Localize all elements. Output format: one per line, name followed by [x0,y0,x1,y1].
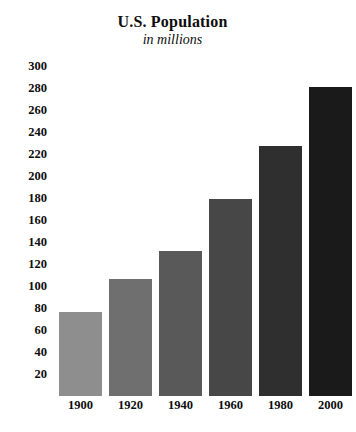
chart-title-block: U.S. Population in millions [0,12,345,49]
x-tick-label: 1980 [253,398,308,413]
bar [159,251,202,396]
bar [309,87,352,396]
bar [59,312,102,396]
y-tick-label: 280 [0,82,50,94]
y-tick-label: 300 [0,60,50,72]
y-tick-label: 80 [0,302,50,314]
y-tick-label: 260 [0,104,50,116]
bar [209,199,252,396]
y-tick-label: 140 [0,236,50,248]
x-tick-label: 1940 [153,398,208,413]
y-tick-label: 160 [0,214,50,226]
x-tick-label: 1920 [103,398,158,413]
bar [259,146,302,396]
y-tick-label: 40 [0,346,50,358]
y-tick-label: 240 [0,126,50,138]
x-tick-label: 2000 [303,398,356,413]
x-tick-label: 1960 [203,398,258,413]
chart-subtitle: in millions [0,31,345,49]
y-tick-label: 180 [0,192,50,204]
plot-area [55,55,345,396]
y-tick-label: 220 [0,148,50,160]
chart-title: U.S. Population [0,12,345,31]
y-tick-label: 120 [0,258,50,270]
y-tick-label: 200 [0,170,50,182]
y-tick-label: 20 [0,368,50,380]
bar [109,279,152,396]
y-axis: 3002802602402202001801601401201008060402… [0,0,50,432]
y-tick-label: 100 [0,280,50,292]
x-axis: 190019201940196019802000 [0,398,345,428]
y-tick-label: 60 [0,324,50,336]
x-tick-label: 1900 [53,398,108,413]
